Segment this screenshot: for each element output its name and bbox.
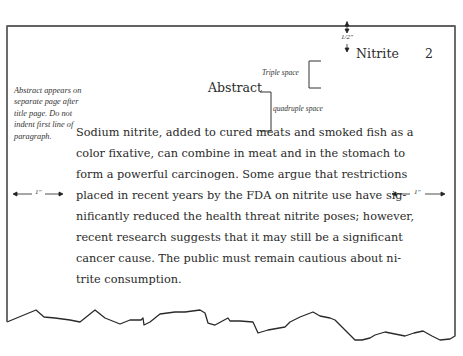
left-margin-label: 1" xyxy=(33,188,43,196)
quadruple-space-label: quadruple space xyxy=(273,104,323,113)
body-line: nificantly reduced the health threat nit… xyxy=(76,206,388,227)
body-line: recent research suggests that it may sti… xyxy=(76,227,388,248)
body-line: trite consumption. xyxy=(76,269,388,290)
body-line: placed in recent years by the FDA on nit… xyxy=(76,185,388,206)
half-inch-label: 1/2" xyxy=(341,33,353,41)
page-number: 2 xyxy=(425,46,433,61)
abstract-body: Sodium nitrite, added to cured meats and… xyxy=(76,122,388,290)
body-line: Sodium nitrite, added to cured meats and… xyxy=(76,122,388,143)
side-note: Abstract appears on separate page after … xyxy=(14,85,82,142)
triple-space-bracket xyxy=(309,61,321,88)
body-line: cancer cause. The public must remain cau… xyxy=(76,248,388,269)
running-head-title: Nitrite xyxy=(356,46,399,61)
right-margin-label: 1" xyxy=(412,188,422,196)
running-head: Nitrite2 xyxy=(356,46,433,61)
body-line: form a powerful carcinogen. Some argue t… xyxy=(76,164,388,185)
abstract-heading: Abstract xyxy=(208,80,262,95)
body-line: color fixative, can combine in meat and … xyxy=(76,143,388,164)
triple-space-label: Triple space xyxy=(262,68,299,77)
